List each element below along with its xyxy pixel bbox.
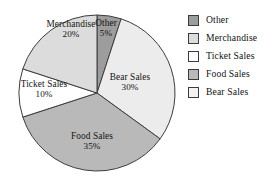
legend-swatch-icon bbox=[188, 87, 199, 98]
legend-item-other[interactable]: Other bbox=[188, 11, 275, 29]
pie-plot-area: Other5%Bear Sales30%Food Sales35%Ticket … bbox=[0, 0, 190, 192]
legend-label: Merchandise bbox=[206, 33, 257, 43]
legend-swatch-icon bbox=[188, 15, 199, 26]
legend-swatch-icon bbox=[188, 33, 199, 44]
pie-slices-group bbox=[19, 15, 175, 171]
legend-label: Ticket Sales bbox=[206, 51, 255, 61]
legend-label: Bear Sales bbox=[206, 87, 248, 97]
pie-svg bbox=[0, 0, 190, 192]
legend-item-ticket-sales[interactable]: Ticket Sales bbox=[188, 47, 275, 65]
chart-legend: OtherMerchandiseTicket SalesFood SalesBe… bbox=[188, 11, 275, 101]
legend-item-bear-sales[interactable]: Bear Sales bbox=[188, 83, 275, 101]
legend-item-merchandise[interactable]: Merchandise bbox=[188, 29, 275, 47]
legend-swatch-icon bbox=[188, 69, 199, 80]
legend-swatch-icon bbox=[188, 51, 199, 62]
legend-item-food-sales[interactable]: Food Sales bbox=[188, 65, 275, 83]
legend-label: Food Sales bbox=[206, 69, 250, 79]
legend-label: Other bbox=[206, 15, 229, 25]
pie-chart-figure: Other5%Bear Sales30%Food Sales35%Ticket … bbox=[0, 0, 275, 192]
